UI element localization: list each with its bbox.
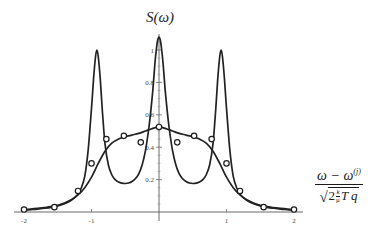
- caption-fraction: ω − ω(j) √2kμT q: [315, 168, 363, 205]
- caption-numerator-main: ω − ω: [317, 168, 353, 183]
- data-point-marker: [156, 124, 161, 129]
- k-symbol: k: [336, 189, 340, 196]
- caption-radical: √2kμT q: [319, 187, 358, 205]
- x-axis-caption: ω − ω(j) √2kμT q: [299, 168, 379, 205]
- data-point-marker: [104, 136, 109, 141]
- x-tick-label-1: 1: [225, 217, 229, 225]
- data-point-marker: [75, 188, 80, 193]
- data-point-marker: [291, 207, 296, 212]
- data-point-marker: [121, 133, 126, 138]
- caption-denominator: √2kμT q: [315, 185, 363, 205]
- x-tick-label-2: 2: [292, 217, 296, 225]
- y-tick-marks: [156, 42, 162, 204]
- data-point-marker: [21, 207, 26, 212]
- plot-title: S(ω): [146, 9, 174, 26]
- radicand: 2kμT q: [328, 187, 359, 205]
- x-tick-label--1: -1: [89, 217, 95, 225]
- radical-sign: √: [319, 190, 327, 205]
- data-point-marker: [138, 140, 143, 145]
- x-tick-label--2: -2: [21, 217, 27, 225]
- data-point-marker: [209, 136, 214, 141]
- caption-numerator-superscript: (j): [353, 167, 361, 176]
- data-point-marker: [261, 204, 266, 209]
- radicand-tail: T q: [341, 188, 358, 203]
- radicand-lead: 2: [329, 188, 336, 203]
- title-argument: (ω): [153, 9, 174, 26]
- figure-panel: S(ω) -2-112 0.20.40.60.81 ω − ω(j) √2kμT…: [0, 0, 380, 238]
- data-point-marker: [237, 188, 242, 193]
- y-tick-label-1: 1: [151, 47, 155, 55]
- data-point-marker: [224, 161, 229, 166]
- data-point-marker: [175, 140, 180, 145]
- y-tick-label-0.2: 0.2: [145, 176, 154, 184]
- caption-numerator: ω − ω(j): [315, 168, 363, 184]
- data-point-marker: [89, 161, 94, 166]
- k-over-mu-fraction: kμ: [336, 189, 340, 205]
- mu-symbol: μ: [336, 197, 340, 204]
- data-point-marker: [191, 133, 196, 138]
- data-point-marker: [52, 204, 57, 209]
